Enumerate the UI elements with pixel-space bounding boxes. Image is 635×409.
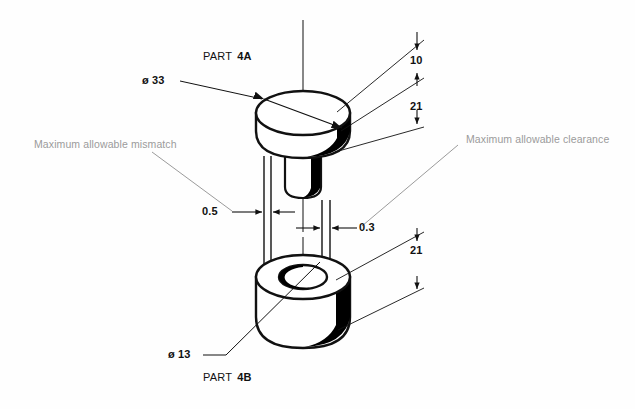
dim-0-3-label: 0.3 xyxy=(359,221,375,233)
part-4a-label: PART4A xyxy=(203,50,252,62)
diameter-13-value: 13 xyxy=(178,348,191,360)
diameter-33-value: 33 xyxy=(152,74,165,86)
part-4a-prefix: PART xyxy=(203,50,232,62)
diameter-33-leader xyxy=(180,81,262,99)
note-maximum-allowable-mismatch: Maximum allowable mismatch xyxy=(34,138,177,150)
note-right-leader xyxy=(362,145,458,226)
note-left-leader xyxy=(152,152,232,211)
dim-21-bottom-label: 21 xyxy=(410,244,423,256)
diameter-symbol-bore: ø xyxy=(168,348,175,360)
diameter-13-label: ø13 xyxy=(168,348,191,360)
diameter-33-label: ø33 xyxy=(142,74,165,86)
part-4b-number: 4B xyxy=(237,371,251,383)
dim-10-label: 10 xyxy=(410,54,423,66)
drawing-page: PART4A PART4B ø33 ø13 10 21 21 0.5 0.3 M… xyxy=(0,0,635,409)
diameter-symbol-outer: ø xyxy=(142,74,149,86)
dim-21-top-label: 21 xyxy=(410,100,423,112)
dim-0-5-label: 0.5 xyxy=(202,205,218,217)
note-maximum-allowable-clearance: Maximum allowable clearance xyxy=(466,133,609,145)
technical-drawing-canvas xyxy=(0,0,635,409)
part-4b-label: PART4B xyxy=(203,371,252,383)
part-4b-prefix: PART xyxy=(203,371,232,383)
ext-line-bottom-1 xyxy=(336,232,424,280)
part-4a-number: 4A xyxy=(237,50,251,62)
